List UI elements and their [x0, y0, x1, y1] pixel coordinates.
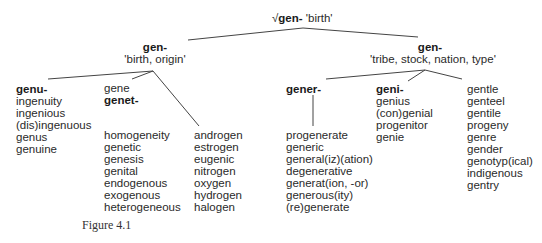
group-head: genet-: [104, 94, 139, 106]
branch-gloss: 'birth, origin': [110, 53, 200, 65]
word: progenerate: [286, 129, 373, 141]
word: genus: [16, 131, 91, 143]
word: genital: [104, 165, 181, 177]
word: genie: [376, 131, 433, 143]
word: (re)generate: [286, 201, 373, 213]
word: progeny: [467, 119, 533, 131]
group-gener-words: progenerate generic general(iz)(ation) d…: [286, 129, 373, 213]
group-gent: gentle genteel gentile progeny genre gen…: [467, 83, 533, 191]
word: indigenous: [467, 167, 533, 179]
word: heterogeneous: [104, 201, 181, 213]
word: genuine: [16, 143, 91, 155]
figure-caption: Figure 4.1: [82, 218, 131, 233]
word: gentry: [467, 179, 533, 191]
branch-node-birth-origin: gen- 'birth, origin': [110, 41, 200, 65]
word: genesis: [104, 153, 181, 165]
word: hydrogen: [194, 189, 243, 201]
word: degenerative: [286, 165, 373, 177]
word: gentile: [467, 107, 533, 119]
group-geni: geni- genius (con)genial progenitor geni…: [376, 83, 433, 143]
branch-node-tribe: gen- 'tribe, stock, nation, type': [370, 41, 490, 65]
word: genius: [376, 95, 433, 107]
group-genet-words: homogeneity genetic genesis genital endo…: [104, 129, 181, 213]
word: genre: [467, 131, 533, 143]
word: estrogen: [194, 141, 243, 153]
group-pre: gene: [104, 82, 139, 94]
branch-morpheme: gen-: [110, 41, 200, 53]
word: generous(ity): [286, 189, 373, 201]
group-genu: genu- ingenuity ingenious (dis)ingenuous…: [16, 83, 91, 155]
word: (con)genial: [376, 107, 433, 119]
word: progenitor: [376, 119, 433, 131]
word: homogeneity: [104, 129, 181, 141]
word: oxygen: [194, 177, 243, 189]
word: eugenic: [194, 153, 243, 165]
group-head: genu-: [16, 83, 91, 95]
word: nitrogen: [194, 165, 243, 177]
word: ingenuity: [16, 95, 91, 107]
word: exogenous: [104, 189, 181, 201]
word: (dis)ingenuous: [16, 119, 91, 131]
group-head: geni-: [376, 83, 433, 95]
group-gener-head: gener-: [286, 83, 321, 95]
branch-gloss: 'tribe, stock, nation, type': [370, 53, 490, 65]
word: gentle: [467, 83, 533, 95]
word: generic: [286, 141, 373, 153]
word: genetic: [104, 141, 181, 153]
root-gloss: 'birth': [306, 12, 333, 24]
word: genotyp(ical): [467, 155, 533, 167]
root-node: √gen- 'birth': [272, 12, 333, 24]
word: androgen: [194, 129, 243, 141]
word: ingenious: [16, 107, 91, 119]
branch-morpheme: gen-: [370, 41, 490, 53]
root-morpheme: gen-: [278, 12, 302, 24]
word: endogenous: [104, 177, 181, 189]
group-gen-suffix: androgen estrogen eugenic nitrogen oxyge…: [194, 129, 243, 213]
word: gender: [467, 143, 533, 155]
word: halogen: [194, 201, 243, 213]
word: genteel: [467, 95, 533, 107]
group-genet: gene genet-: [104, 82, 139, 106]
word: generat(ion, -or): [286, 177, 373, 189]
group-head: gener-: [286, 83, 321, 95]
word: general(iz)(ation): [286, 153, 373, 165]
